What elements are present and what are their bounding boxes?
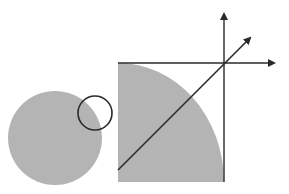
filled-disk	[8, 91, 102, 185]
geometry-diagram	[0, 0, 289, 194]
